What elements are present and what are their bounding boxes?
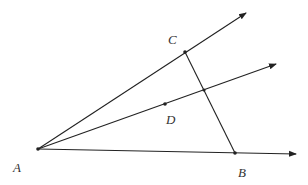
ray-ac	[38, 13, 246, 149]
segment-cb	[185, 52, 235, 153]
point-d	[163, 102, 167, 106]
label-c: C	[168, 32, 177, 47]
point-b	[233, 151, 237, 155]
label-d: D	[165, 112, 176, 127]
point-a	[36, 147, 40, 151]
ray-ad	[38, 64, 276, 149]
label-a: A	[12, 160, 21, 175]
label-b: B	[238, 165, 246, 180]
geometry-diagram: A B C D	[0, 0, 308, 185]
intersection-point	[202, 88, 205, 91]
ray-ab	[38, 149, 296, 154]
point-c	[183, 50, 187, 54]
